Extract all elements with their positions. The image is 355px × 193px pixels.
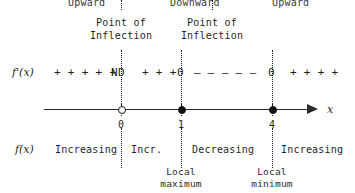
divider-line-top-b xyxy=(212,0,213,10)
point-of-inflection-1-line1: Point of xyxy=(81,16,161,29)
number-line-arrowhead xyxy=(307,104,318,114)
local-minimum-line1: Local xyxy=(227,166,317,178)
number-line-tick-label-0: 0 xyxy=(101,120,141,130)
derivative-signs-segment-4: + + + + xyxy=(290,67,338,78)
derivative-marker-zero-1: 0 xyxy=(177,67,184,78)
divider-line-x4-lower xyxy=(272,128,273,168)
local-minimum-line2: minimum xyxy=(227,178,317,190)
behavior-segment-2: Incr. xyxy=(131,145,162,155)
derivative-signs-segment-2: + + + xyxy=(142,67,177,78)
behavior-row-label: f(x) xyxy=(15,144,34,155)
number-line-point-4 xyxy=(269,106,277,114)
point-of-inflection-2-line2: Inflection xyxy=(172,29,252,42)
local-maximum-line2: maximum xyxy=(136,178,226,190)
derivative-signs-segment-1: + + + + + xyxy=(54,67,116,78)
derivative-marker-nd: ND xyxy=(111,67,125,78)
concavity-label-1: Upward xyxy=(68,0,105,8)
number-line-point-1 xyxy=(178,106,186,114)
axis-variable-label: x xyxy=(327,104,333,115)
point-of-inflection-2-line1: Point of xyxy=(172,16,252,29)
divider-line-top-a xyxy=(121,0,122,10)
number-line-tick-label-4: 4 xyxy=(252,120,292,130)
divider-line-x0-lower xyxy=(121,128,122,168)
sign-chart-diagram: Upward Downward Upward Point of Inflecti… xyxy=(0,0,355,193)
local-maximum-line1: Local xyxy=(136,166,226,178)
derivative-row-label: f'(x) xyxy=(12,67,34,78)
derivative-signs-segment-3: – – – – – xyxy=(194,67,256,78)
concavity-label-3: Upward xyxy=(272,0,309,8)
behavior-segment-4: Increasing xyxy=(281,145,343,155)
behavior-segment-1: Increasing xyxy=(55,145,117,155)
number-line-point-0 xyxy=(118,106,126,114)
derivative-marker-zero-2: 0 xyxy=(268,67,275,78)
behavior-segment-3: Decreasing xyxy=(192,145,254,155)
number-line-tick-label-1: 1 xyxy=(161,120,201,130)
point-of-inflection-1-line2: Inflection xyxy=(81,29,161,42)
divider-line-x1-lower xyxy=(181,128,182,168)
